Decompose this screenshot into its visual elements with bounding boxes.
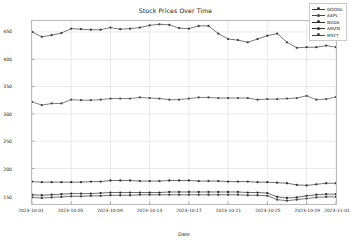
series-line-googl xyxy=(32,24,336,47)
data-point xyxy=(305,184,307,186)
data-point xyxy=(286,200,288,202)
x-tick-label: 2023-10-29 xyxy=(295,208,321,213)
x-tick-label: 2023-10-25 xyxy=(255,208,281,213)
data-point xyxy=(50,102,52,104)
data-point xyxy=(198,191,200,193)
y-tick-label: 300 xyxy=(0,111,12,116)
legend-marker-icon xyxy=(312,13,325,18)
data-point xyxy=(335,196,336,198)
legend-marker-icon xyxy=(312,20,325,25)
data-point xyxy=(178,194,180,196)
data-point xyxy=(80,99,82,101)
data-point xyxy=(149,180,151,182)
data-point xyxy=(276,32,278,34)
data-point xyxy=(119,179,121,181)
data-point xyxy=(129,97,131,99)
series-line-aapl xyxy=(32,96,336,105)
data-point xyxy=(305,46,307,48)
data-point xyxy=(247,194,249,196)
data-point xyxy=(217,194,219,196)
data-point xyxy=(217,191,219,193)
legend-item-aapl[interactable]: AAPL xyxy=(312,13,343,19)
data-point xyxy=(198,194,200,196)
data-point xyxy=(60,193,62,195)
data-point xyxy=(168,99,170,101)
data-point xyxy=(315,99,317,101)
legend-item-amzn[interactable]: AMZN xyxy=(312,26,343,32)
data-point xyxy=(109,191,111,193)
legend-item-msft[interactable]: MSFT xyxy=(312,32,343,38)
data-point xyxy=(276,98,278,100)
data-point xyxy=(129,191,131,193)
data-point xyxy=(80,181,82,183)
legend-item-googl[interactable]: GOOGL xyxy=(312,6,343,12)
data-point xyxy=(276,198,278,200)
data-point xyxy=(266,35,268,37)
data-point xyxy=(325,193,327,195)
data-point xyxy=(178,191,180,193)
data-point xyxy=(139,191,141,193)
data-point xyxy=(119,28,121,30)
data-point xyxy=(188,194,190,196)
data-point xyxy=(70,192,72,194)
data-point xyxy=(296,184,298,186)
data-point xyxy=(168,194,170,196)
data-point xyxy=(296,198,298,200)
data-point xyxy=(158,97,160,99)
legend-label: AAPL xyxy=(327,13,338,18)
data-point xyxy=(60,102,62,104)
legend-marker-icon xyxy=(312,26,325,31)
data-point xyxy=(325,98,327,100)
data-point xyxy=(207,194,209,196)
x-tick-label: 2023-10-17 xyxy=(176,208,202,213)
data-point xyxy=(217,97,219,99)
data-point xyxy=(188,179,190,181)
data-point xyxy=(276,196,278,198)
legend-item-nvda[interactable]: NVDA xyxy=(312,19,343,25)
data-point xyxy=(198,25,200,27)
chart-legend[interactable]: GOOGLAAPLNVDAAMZNMSFT xyxy=(309,3,347,41)
data-point xyxy=(227,194,229,196)
data-point xyxy=(80,195,82,197)
data-point xyxy=(90,195,92,197)
data-point xyxy=(32,194,33,196)
data-point xyxy=(256,38,258,40)
series-lines xyxy=(32,21,336,204)
data-point xyxy=(100,99,102,101)
data-point xyxy=(305,195,307,197)
data-point xyxy=(149,97,151,99)
data-point xyxy=(168,191,170,193)
data-point xyxy=(178,179,180,181)
data-point xyxy=(198,96,200,98)
data-point xyxy=(119,194,121,196)
data-point xyxy=(237,97,239,99)
data-point xyxy=(168,179,170,181)
data-point xyxy=(80,192,82,194)
data-point xyxy=(41,197,43,199)
x-tick-label: 2023-10-13 xyxy=(137,208,163,213)
data-point xyxy=(90,192,92,194)
data-point xyxy=(227,180,229,182)
data-point xyxy=(335,182,336,184)
data-point xyxy=(247,97,249,99)
data-point xyxy=(217,180,219,182)
y-tick-label: 400 xyxy=(0,56,12,61)
data-point xyxy=(41,181,43,183)
data-point xyxy=(50,196,52,198)
data-point xyxy=(305,95,307,97)
data-point xyxy=(32,180,33,182)
data-point xyxy=(109,97,111,99)
data-point xyxy=(50,181,52,183)
x-tick-label: 2023-10-21 xyxy=(216,208,242,213)
x-axis-label: Date xyxy=(31,232,337,237)
data-point xyxy=(139,194,141,196)
data-point xyxy=(256,181,258,183)
data-point xyxy=(100,195,102,197)
data-point xyxy=(158,194,160,196)
data-point xyxy=(335,193,336,195)
data-point xyxy=(70,181,72,183)
legend-marker-icon xyxy=(312,7,325,12)
data-point xyxy=(70,99,72,101)
data-point xyxy=(158,180,160,182)
data-point xyxy=(60,196,62,198)
